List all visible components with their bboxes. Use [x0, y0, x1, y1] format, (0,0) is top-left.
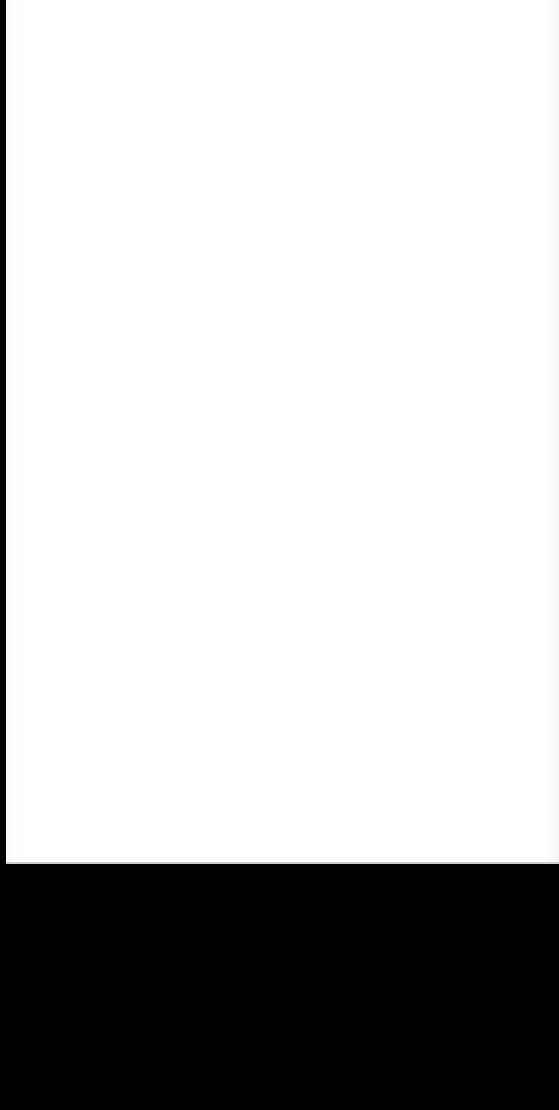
- screen: [0, 0, 559, 1110]
- black-bottom-area: [0, 864, 559, 1110]
- blank-content-panel: [6, 0, 559, 864]
